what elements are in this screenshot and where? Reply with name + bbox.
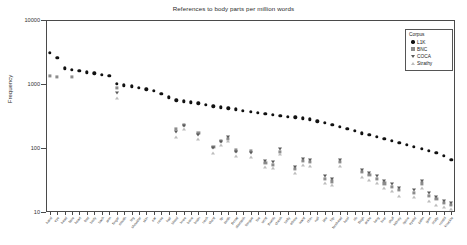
data-point	[264, 112, 267, 115]
x-tick-label: heel	[343, 216, 350, 224]
data-point	[278, 148, 282, 151]
y-axis-label: Frequency	[7, 59, 13, 119]
data-point	[427, 199, 431, 202]
data-point	[197, 102, 200, 105]
data-point	[449, 208, 453, 211]
legend-marker-square-icon	[409, 47, 417, 50]
data-point	[390, 139, 393, 142]
data-point	[383, 137, 386, 140]
legend-item[interactable]: COCA	[409, 53, 449, 60]
data-point	[330, 184, 334, 187]
data-point	[152, 89, 155, 92]
chart-title: References to body parts per million wor…	[0, 5, 467, 12]
data-point	[278, 153, 282, 156]
data-point	[196, 137, 200, 140]
data-point	[271, 161, 275, 164]
data-point	[412, 196, 416, 199]
data-point	[241, 109, 244, 112]
data-point	[397, 194, 401, 197]
data-point	[330, 177, 334, 180]
data-point	[442, 205, 446, 208]
legend: Corpus L1KBNCCOCAStrathy	[405, 29, 453, 71]
x-tick-label: back	[97, 216, 105, 224]
data-point	[420, 186, 424, 189]
data-point	[316, 120, 319, 123]
data-point	[360, 176, 364, 179]
data-point	[435, 151, 438, 154]
data-point	[219, 106, 222, 109]
x-tick-label: chin	[306, 216, 313, 224]
data-point	[413, 191, 416, 194]
data-point	[226, 140, 230, 143]
data-point	[434, 203, 438, 206]
data-point	[137, 86, 140, 89]
data-point	[450, 158, 453, 161]
data-point	[338, 125, 341, 128]
data-point	[271, 167, 275, 170]
data-point	[308, 165, 312, 168]
legend-label: L1K	[417, 40, 426, 45]
data-point	[115, 97, 119, 100]
legend-item[interactable]: Strathy	[409, 60, 449, 67]
data-point	[442, 199, 446, 202]
data-point	[301, 117, 304, 120]
data-point	[420, 180, 424, 183]
legend-marker-circle-icon	[409, 40, 417, 43]
data-point	[286, 115, 289, 118]
legend-label: Strathy	[417, 61, 432, 66]
x-tick-label: nose	[156, 216, 164, 225]
y-tick-label: 1000	[0, 81, 40, 87]
data-point	[263, 166, 267, 169]
data-point	[360, 169, 364, 172]
data-point	[323, 121, 326, 124]
legend-label: BNC	[417, 47, 427, 52]
data-point	[367, 178, 371, 181]
data-point	[122, 83, 125, 86]
x-tick-label: palm	[417, 216, 425, 225]
legend-item[interactable]: BNC	[409, 46, 449, 53]
data-point	[108, 74, 111, 77]
data-point	[115, 92, 119, 95]
data-point	[160, 92, 163, 95]
data-point	[442, 154, 445, 157]
data-point	[375, 135, 378, 138]
legend-entries: L1KBNCCOCAStrathy	[409, 39, 449, 67]
data-point	[174, 98, 177, 101]
data-point	[293, 166, 297, 169]
data-point	[427, 149, 430, 152]
data-point	[301, 157, 305, 160]
data-point	[367, 171, 371, 174]
data-point	[174, 130, 178, 133]
legend-title: Corpus	[409, 32, 449, 37]
x-tick-label: waist	[297, 216, 305, 225]
x-tick-label: nail	[314, 216, 321, 223]
legend-item[interactable]: L1K	[409, 39, 449, 46]
data-point	[375, 175, 379, 178]
x-tick-label: brain	[194, 216, 202, 225]
y-tick-label: 10	[0, 209, 40, 215]
x-tick-label: skin	[142, 216, 149, 224]
data-point	[323, 175, 327, 178]
data-point	[434, 196, 438, 199]
data-point	[398, 141, 401, 144]
x-tick-label: hand	[45, 216, 53, 225]
data-point	[249, 110, 252, 113]
data-point	[226, 135, 230, 138]
data-point	[234, 108, 237, 111]
data-point	[48, 74, 51, 77]
data-point	[293, 116, 296, 119]
data-point	[345, 127, 348, 130]
chart-root: References to body parts per million wor…	[0, 0, 467, 245]
plot-data-area	[46, 20, 455, 212]
data-point	[331, 123, 334, 126]
data-point	[70, 76, 73, 79]
data-point	[263, 160, 267, 163]
data-point	[249, 151, 253, 154]
x-tick-label: liver	[380, 216, 387, 224]
data-point	[78, 69, 81, 72]
data-point	[100, 73, 103, 76]
data-point	[301, 163, 305, 166]
data-point	[338, 165, 342, 168]
data-point	[63, 67, 66, 70]
data-point	[397, 186, 401, 189]
